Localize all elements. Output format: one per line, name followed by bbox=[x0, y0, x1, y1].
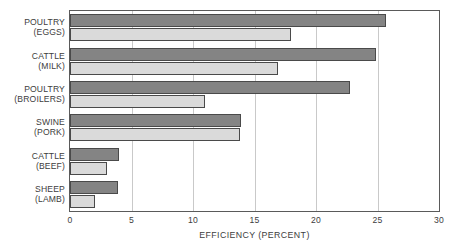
bar bbox=[70, 114, 241, 127]
x-axis-title: EFFICIENCY (PERCENT) bbox=[69, 230, 440, 240]
category-label: CATTLE(MILK) bbox=[0, 51, 65, 72]
x-tick-label: 0 bbox=[50, 215, 90, 225]
bar bbox=[70, 62, 278, 75]
x-tick-label: 5 bbox=[112, 215, 152, 225]
category-label-line2: (EGGS) bbox=[0, 27, 65, 37]
x-tick-label: 30 bbox=[419, 215, 450, 225]
bar-chart: POULTRY(EGGS)CATTLE(MILK)POULTRY(BROILER… bbox=[0, 0, 450, 248]
bar bbox=[70, 95, 205, 108]
category-label-line1: SHEEP bbox=[35, 184, 65, 194]
category-label: CATTLE(BEEF) bbox=[0, 151, 65, 172]
category-label-line1: CATTLE bbox=[32, 51, 65, 61]
category-label-line2: (PORK) bbox=[0, 127, 65, 137]
category-label-line1: POULTRY bbox=[24, 17, 65, 27]
category-label: SHEEP(LAMB) bbox=[0, 184, 65, 205]
category-label: POULTRY(BROILERS) bbox=[0, 84, 65, 105]
x-tick-label: 10 bbox=[173, 215, 213, 225]
bar bbox=[70, 162, 107, 175]
bars-layer bbox=[70, 11, 439, 211]
category-label-line2: (LAMB) bbox=[0, 194, 65, 204]
bar bbox=[70, 181, 118, 194]
x-tick-label: 25 bbox=[358, 215, 398, 225]
category-label: POULTRY(EGGS) bbox=[0, 17, 65, 38]
bar bbox=[70, 128, 240, 141]
category-label-line1: SWINE bbox=[36, 117, 65, 127]
bar bbox=[70, 195, 95, 208]
bar bbox=[70, 148, 119, 161]
bar bbox=[70, 28, 291, 41]
bar bbox=[70, 14, 386, 27]
category-label-line2: (BEEF) bbox=[0, 161, 65, 171]
category-label: SWINE(PORK) bbox=[0, 117, 65, 138]
category-label-line2: (MILK) bbox=[0, 61, 65, 71]
category-label-line1: POULTRY bbox=[24, 84, 65, 94]
category-label-line1: CATTLE bbox=[32, 151, 65, 161]
x-tick-label: 15 bbox=[235, 215, 275, 225]
bar bbox=[70, 48, 376, 61]
plot-area bbox=[69, 10, 440, 212]
x-tick-label: 20 bbox=[296, 215, 336, 225]
bar bbox=[70, 81, 350, 94]
category-label-line2: (BROILERS) bbox=[0, 94, 65, 104]
